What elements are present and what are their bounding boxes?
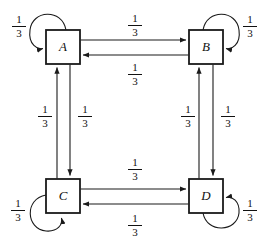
fraction-numerator: 1 bbox=[35, 104, 55, 115]
edge-label-loop-b: 1 3 bbox=[240, 14, 260, 39]
fraction-denominator: 3 bbox=[125, 76, 145, 87]
fraction-numerator: 1 bbox=[240, 14, 260, 25]
fraction-denominator: 3 bbox=[218, 118, 238, 129]
edge-label-loop-d: 1 3 bbox=[240, 198, 260, 223]
fraction-denominator: 3 bbox=[75, 118, 95, 129]
fraction-numerator: 1 bbox=[125, 213, 145, 224]
fraction-denominator: 3 bbox=[9, 28, 29, 39]
fraction-denominator: 3 bbox=[125, 27, 145, 38]
node-b-label: B bbox=[202, 39, 210, 54]
edge-label-b-to-a: 1 3 bbox=[125, 62, 145, 87]
fraction-numerator: 1 bbox=[125, 13, 145, 24]
fraction-denominator: 3 bbox=[35, 118, 55, 129]
fraction-numerator: 1 bbox=[178, 104, 198, 115]
edge-label-d-to-b: 1 3 bbox=[178, 104, 198, 129]
fraction-denominator: 3 bbox=[240, 28, 260, 39]
fraction-denominator: 3 bbox=[240, 212, 260, 223]
node-b[interactable]: B bbox=[189, 30, 223, 64]
edge-label-c-to-a: 1 3 bbox=[35, 104, 55, 129]
edge-label-a-to-b: 1 3 bbox=[125, 13, 145, 38]
fraction-numerator: 1 bbox=[218, 104, 238, 115]
fraction-numerator: 1 bbox=[8, 198, 28, 209]
edge-label-loop-c: 1 3 bbox=[8, 198, 28, 223]
fraction-numerator: 1 bbox=[75, 104, 95, 115]
edge-label-b-to-d: 1 3 bbox=[218, 104, 238, 129]
node-c-label: C bbox=[59, 188, 68, 203]
fraction-denominator: 3 bbox=[8, 212, 28, 223]
edge-label-c-to-d: 1 3 bbox=[125, 157, 145, 182]
node-d[interactable]: D bbox=[189, 179, 223, 213]
diagram-canvas: A B C D 1 3 1 3 1 3 1 3 1 bbox=[0, 0, 271, 246]
edge-label-a-to-c: 1 3 bbox=[75, 104, 95, 129]
fraction-denominator: 3 bbox=[125, 171, 145, 182]
node-d-label: D bbox=[200, 188, 211, 203]
fraction-denominator: 3 bbox=[178, 118, 198, 129]
node-a[interactable]: A bbox=[46, 30, 80, 64]
fraction-numerator: 1 bbox=[9, 14, 29, 25]
fraction-numerator: 1 bbox=[125, 157, 145, 168]
fraction-denominator: 3 bbox=[125, 227, 145, 238]
fraction-numerator: 1 bbox=[125, 62, 145, 73]
edge-label-d-to-c: 1 3 bbox=[125, 213, 145, 238]
node-a-label: A bbox=[58, 39, 67, 54]
edge-label-loop-a: 1 3 bbox=[9, 14, 29, 39]
fraction-numerator: 1 bbox=[240, 198, 260, 209]
node-c[interactable]: C bbox=[46, 179, 80, 213]
